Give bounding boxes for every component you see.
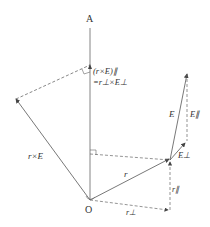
cross-product-label: r×E <box>28 151 44 161</box>
axis-parallel-arrowhead <box>88 64 92 69</box>
field-label: E <box>168 109 175 119</box>
cross-parallel-label-1: (r×E)∥ <box>93 66 118 76</box>
position-label: r <box>124 169 128 179</box>
projection-dashed <box>16 65 90 99</box>
horizontal-dashed <box>90 154 170 160</box>
right-angle-top <box>82 69 90 74</box>
origin-label: O <box>85 204 92 215</box>
axis-top-label: A <box>86 13 94 24</box>
field-perp-label: E⊥ <box>177 150 190 160</box>
position-arrow <box>90 159 169 200</box>
r-parallel-label: r∥ <box>172 185 180 194</box>
r-perp-label: r⊥ <box>126 208 136 217</box>
cross-parallel-label-2: =r⊥×E⊥ <box>93 77 127 87</box>
cross-product-arrow <box>16 99 90 200</box>
vector-diagram: A O (r×E)∥ =r⊥×E⊥ r×E r E E∥ E⊥ r∥ r⊥ <box>0 0 210 227</box>
field-parallel-label: E∥ <box>189 109 200 119</box>
